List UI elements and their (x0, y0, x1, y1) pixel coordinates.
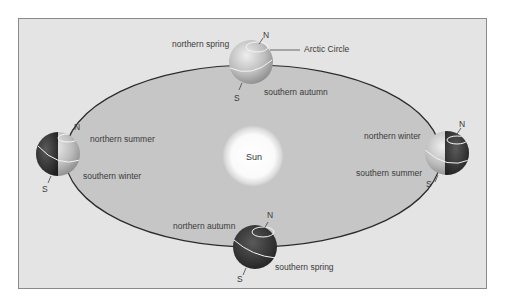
pole-n-top: N (263, 30, 269, 40)
pole-n-left: N (74, 122, 80, 132)
pole-s-right: S (426, 179, 432, 189)
pole-s-left: S (42, 184, 48, 194)
label-northern-autumn: northern autumn (173, 221, 235, 231)
label-northern-winter: northern winter (364, 131, 421, 141)
pole-s-bottom: S (237, 274, 243, 284)
pole-n-right: N (459, 119, 465, 129)
pole-n-bottom: N (267, 210, 273, 220)
label-northern-summer: northern summer (90, 134, 155, 144)
label-southern-autumn: southern autumn (264, 87, 328, 97)
label-northern-spring: northern spring (172, 39, 229, 49)
label-southern-summer: southern summer (356, 168, 422, 178)
sun-label: Sun (246, 152, 262, 162)
label-southern-spring: southern spring (275, 262, 334, 272)
label-southern-winter: southern winter (83, 171, 141, 181)
label-arctic-circle: Arctic Circle (304, 44, 349, 54)
pole-s-top: S (234, 93, 240, 103)
